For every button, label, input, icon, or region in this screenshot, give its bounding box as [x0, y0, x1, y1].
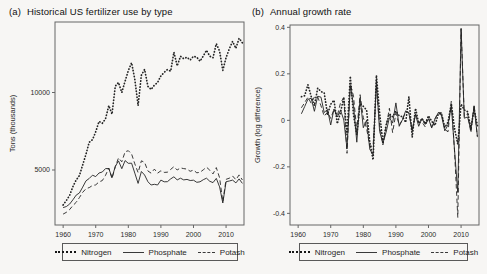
x-tick-label: 1970	[323, 231, 339, 238]
y-tick-label: 0.4	[275, 24, 285, 31]
x-tick-label: 2010	[453, 231, 469, 238]
x-tick-label: 1960	[290, 231, 306, 238]
legend-item-potash: Potash	[198, 248, 245, 257]
panel-b-legend: Nitrogen Phosphate Potash	[299, 243, 468, 261]
y-tick-label: 0	[281, 117, 285, 124]
potash-series-line	[301, 28, 477, 217]
phosphate-line-swatch	[123, 252, 144, 253]
nitrogen-line-swatch	[289, 251, 310, 253]
x-tick-label: 1960	[55, 231, 71, 238]
x-tick-label: 1970	[88, 231, 104, 238]
legend-item-phosphate: Phosphate	[123, 248, 187, 257]
legend-item-phosphate: Phosphate	[356, 248, 420, 257]
x-tick-label: 2010	[218, 231, 234, 238]
x-tick-label: 2000	[186, 231, 202, 238]
potash-series-line	[63, 151, 242, 214]
x-tick-label: 1990	[388, 231, 404, 238]
x-tick-label: 1990	[153, 231, 169, 238]
panel-a-plot: 196019701980199020002010500010000Tons (t…	[8, 22, 244, 238]
plot-box	[290, 25, 479, 225]
x-tick-label: 2000	[421, 231, 437, 238]
y-tick-label: -0.4	[273, 210, 285, 217]
panel-b-plot: 196019701980199020002010-0.4-0.200.20.4G…	[253, 24, 479, 238]
y-tick-label: 0.2	[275, 70, 285, 77]
phosphate-legend-label: Phosphate	[382, 248, 420, 257]
nitrogen-legend-label: Nitrogen	[81, 248, 111, 257]
nitrogen-line-swatch	[55, 251, 76, 253]
phosphate-series-line	[63, 161, 242, 208]
panel-a-legend: Nitrogen Phosphate Potash	[62, 243, 238, 261]
charts-canvas: 196019701980199020002010500010000Tons (t…	[0, 0, 487, 245]
legend-item-nitrogen: Nitrogen	[55, 248, 111, 257]
potash-line-swatch	[198, 252, 215, 253]
y-axis-title: Growth (log difference)	[253, 86, 262, 163]
fertilizer-figure: (a)Historical US fertilizer use by type …	[0, 0, 487, 274]
potash-legend-label: Potash	[453, 248, 478, 257]
y-tick-label: -0.2	[273, 163, 285, 170]
x-tick-label: 1980	[121, 231, 137, 238]
y-axis-title: Tons (thousands)	[8, 94, 17, 152]
legend-item-nitrogen: Nitrogen	[289, 248, 345, 257]
potash-line-swatch	[431, 252, 448, 253]
y-tick-label: 5000	[34, 166, 50, 173]
legend-item-potash: Potash	[431, 248, 478, 257]
potash-legend-label: Potash	[220, 248, 245, 257]
plot-box	[55, 22, 244, 225]
phosphate-legend-label: Phosphate	[149, 248, 187, 257]
nitrogen-legend-label: Nitrogen	[315, 248, 345, 257]
x-tick-label: 1980	[356, 231, 372, 238]
y-tick-label: 10000	[31, 89, 51, 96]
phosphate-line-swatch	[356, 252, 377, 253]
